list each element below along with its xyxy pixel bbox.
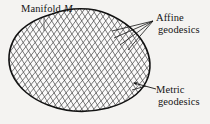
label-affine-line1: Affine (156, 12, 184, 23)
manifold-geodesics-figure: Manifold M Affine geodesics Metric geode… (0, 0, 210, 124)
label-metric-line2: geodesics (156, 96, 200, 108)
label-metric-line1: Metric (156, 84, 185, 95)
label-affine-line2: geodesics (156, 24, 200, 36)
label-affine-geodesics: Affine geodesics (156, 12, 200, 35)
label-metric-geodesics: Metric geodesics (156, 84, 200, 107)
label-manifold: Manifold M (21, 3, 72, 15)
label-manifold-text: Manifold (21, 3, 61, 14)
label-manifold-symbol: M (64, 3, 73, 14)
